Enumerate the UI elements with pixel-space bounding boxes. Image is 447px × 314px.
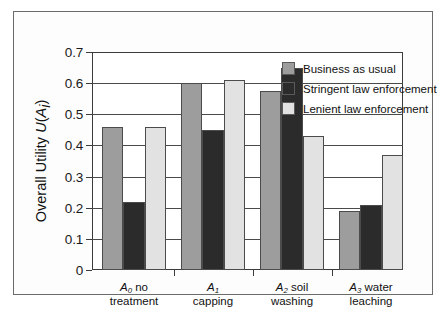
x-axis-category-label-line2: leaching (325, 295, 417, 309)
legend-label: Lenient law enforcement (303, 103, 428, 115)
bar (102, 127, 123, 270)
x-axis-category-label-line1: A3 water (325, 281, 417, 295)
y-axis-tick-label: 0 (76, 263, 83, 278)
y-axis-tick (86, 52, 92, 53)
y-axis-tick (86, 83, 92, 84)
y-axis-tick-label: 0.6 (65, 76, 83, 91)
bar (303, 136, 324, 270)
y-axis-title-u: U (33, 122, 49, 132)
y-axis-tick-label: 0.2 (65, 200, 83, 215)
bar (382, 155, 403, 270)
y-axis-tick-label: 0.5 (65, 107, 83, 122)
x-axis-category-label: A3 waterleaching (325, 281, 417, 309)
legend-item: Lenient law enforcement (282, 102, 437, 115)
y-axis-tick (86, 114, 92, 115)
figure-frame: Overall Utility U(Ai) 00.10.20.30.40.50.… (13, 11, 433, 295)
bar (123, 202, 144, 271)
y-axis-title-prefix: Overall Utility (33, 133, 49, 222)
bar (360, 205, 381, 270)
bar (202, 130, 223, 270)
x-axis-tick (174, 270, 175, 276)
bar (339, 211, 360, 270)
legend-label: Stringent law enforcement (303, 83, 437, 95)
legend-swatch (282, 82, 295, 95)
y-axis-tick (86, 177, 92, 178)
y-axis-tick (86, 208, 92, 209)
bar-group (102, 52, 166, 270)
y-axis-tick-label: 0.4 (65, 138, 83, 153)
y-axis-tick-label: 0.7 (65, 45, 83, 60)
bar (145, 127, 166, 270)
y-axis-tick (86, 239, 92, 240)
legend-item: Business as usual (282, 62, 437, 75)
bar-group (181, 52, 245, 270)
legend-label: Business as usual (303, 63, 396, 75)
legend: Business as usualStringent law enforceme… (282, 62, 437, 115)
bar (224, 80, 245, 270)
bar (181, 83, 202, 270)
y-axis-tick (86, 145, 92, 146)
x-axis-tick (253, 270, 254, 276)
y-axis-tick-label: 0.3 (65, 169, 83, 184)
y-axis-tick-label: 0.1 (65, 231, 83, 246)
x-axis-tick (332, 270, 333, 276)
y-axis-title-close: ) (33, 100, 49, 105)
y-axis-title: Overall Utility U(Ai) (32, 52, 54, 270)
legend-item: Stringent law enforcement (282, 82, 437, 95)
y-axis-title-subscript: i (37, 105, 53, 108)
legend-swatch (282, 102, 295, 115)
y-axis-title-open: ( (33, 117, 49, 122)
bar (260, 91, 281, 270)
y-axis-tick (86, 270, 92, 271)
legend-swatch (282, 62, 295, 75)
y-axis-title-a: A (33, 108, 49, 118)
